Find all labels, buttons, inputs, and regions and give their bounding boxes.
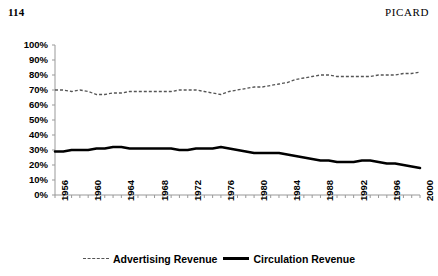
page-number: 114 [8, 6, 25, 18]
y-axis-tick-label: 0% [4, 190, 48, 200]
dashed-line-icon [83, 255, 109, 263]
x-axis-tick-label: 2000 [425, 180, 435, 201]
y-axis-tick-label: 50% [4, 115, 48, 125]
revenue-share-line-chart: 100%90%80%70%60%50%40%30%20%10%0% 195619… [0, 30, 438, 276]
x-axis-tick-label: 1972 [193, 180, 203, 201]
legend-item-circulation-revenue: Circulation Revenue [223, 253, 355, 265]
series-line-circulation-revenue [55, 147, 420, 168]
x-axis-tick-label: 1968 [160, 180, 170, 201]
solid-line-icon [223, 255, 249, 263]
legend-label-circulation-revenue: Circulation Revenue [253, 253, 355, 265]
series-line-advertising-revenue [55, 72, 420, 95]
x-axis-tick-label: 1996 [392, 180, 402, 201]
x-axis-tick-label: 1964 [126, 180, 136, 201]
chart-plot-area [0, 30, 438, 248]
x-axis-tick-label: 1988 [325, 180, 335, 201]
y-axis-tick-label: 60% [4, 100, 48, 110]
legend-label-advertising-revenue: Advertising Revenue [113, 253, 217, 265]
y-axis-tick-label: 70% [4, 85, 48, 95]
y-axis-tick-label: 80% [4, 70, 48, 80]
y-axis-tick-label: 10% [4, 175, 48, 185]
x-axis-tick-label: 1992 [359, 180, 369, 201]
x-axis-tick-label: 1956 [60, 180, 70, 201]
legend-item-advertising-revenue: Advertising Revenue [83, 253, 217, 265]
y-axis-tick-label: 30% [4, 145, 48, 155]
y-axis-tick-label: 90% [4, 55, 48, 65]
running-title: PICARD [385, 6, 429, 18]
y-axis-tick-label: 40% [4, 130, 48, 140]
y-axis-tick-label: 20% [4, 160, 48, 170]
running-head: 114 PICARD [0, 6, 438, 22]
x-axis-tick-label: 1984 [292, 180, 302, 201]
y-axis-tick-label: 100% [4, 40, 48, 50]
x-axis-tick-label: 1960 [93, 180, 103, 201]
x-axis-tick-label: 1976 [226, 180, 236, 201]
chart-legend: Advertising Revenue Circulation Revenue [0, 248, 438, 270]
x-axis-tick-label: 1980 [259, 180, 269, 201]
